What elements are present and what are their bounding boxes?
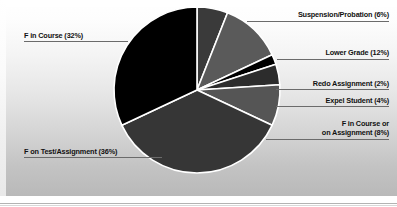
slice-label-f-in-course-or-on-assignment-line2: on Assignment (8%) bbox=[232, 128, 389, 137]
bottom-rule-secondary bbox=[0, 205, 397, 206]
bottom-rule-primary bbox=[0, 203, 397, 204]
leader-line-f-on-test-assignment bbox=[24, 157, 162, 158]
slice-label-f-in-course-or-on-assignment-line1: F in Course or bbox=[232, 119, 389, 128]
leader-line-f-in-course-or-on-assignment bbox=[266, 139, 389, 140]
pie-chart-figure: F in Course (32%) F on Test/Assignment (… bbox=[0, 0, 397, 207]
slice-label-lower-grade: Lower Grade (12%) bbox=[232, 48, 389, 57]
slice-label-f-in-course: F in Course (32%) bbox=[24, 31, 83, 40]
slice-label-redo-assignment: Redo Assignment (2%) bbox=[232, 79, 389, 88]
leader-line-f-in-course bbox=[24, 41, 128, 42]
slice-label-expel-student: Expel Student (4%) bbox=[232, 96, 389, 105]
slice-label-suspension-probation: Suspension/Probation (6%) bbox=[232, 10, 389, 19]
leader-line-lower-grade bbox=[277, 59, 389, 60]
leader-line-redo-assignment bbox=[276, 89, 389, 90]
leader-line-suspension-probation bbox=[247, 21, 389, 22]
slice-label-f-on-test-assignment: F on Test/Assignment (36%) bbox=[24, 147, 117, 156]
leader-line-expel-student bbox=[276, 106, 389, 107]
